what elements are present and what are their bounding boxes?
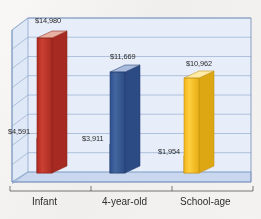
bar-fouryear-back — [110, 65, 140, 173]
data-label-schoolage-front: $1,954 — [158, 147, 180, 156]
data-label-infant-back: $14,980 — [35, 16, 61, 25]
plot-left-wall — [12, 18, 28, 182]
data-label-fouryear-front: $3,911 — [82, 134, 103, 143]
bar-infant-back — [37, 31, 67, 173]
category-label-infant: Infant — [32, 196, 57, 207]
data-label-schoolage-back: $10,962 — [186, 59, 212, 68]
plot-floor — [12, 172, 251, 182]
bar-schoolage-back — [184, 71, 214, 173]
data-label-fouryear-back: $11,669 — [110, 52, 135, 61]
bar-chart — [0, 0, 261, 219]
x-axis — [10, 186, 253, 191]
category-label-fouryear: 4-year-old — [102, 196, 147, 207]
category-label-schoolage: School-age — [180, 196, 231, 207]
data-label-infant-front: $4,591 — [8, 127, 30, 136]
